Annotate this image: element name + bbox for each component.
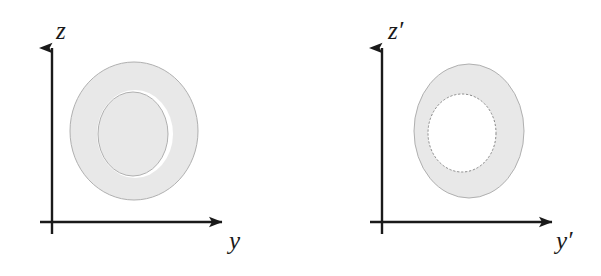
axis-label-z-prime: z′	[388, 18, 403, 43]
right-inner-hole-ellipse	[428, 94, 496, 172]
right-panel	[370, 48, 552, 234]
figure-root: z y z′ y′	[0, 0, 601, 276]
figure-canvas	[0, 0, 601, 276]
left-inner-ellipse	[98, 92, 168, 176]
axis-label-z: z	[56, 18, 66, 43]
axis-label-y: y	[229, 228, 240, 253]
left-panel	[40, 48, 222, 234]
left-torus-shape	[70, 62, 198, 200]
right-annulus-shape	[414, 64, 524, 198]
axis-label-y-prime: y′	[556, 228, 573, 253]
